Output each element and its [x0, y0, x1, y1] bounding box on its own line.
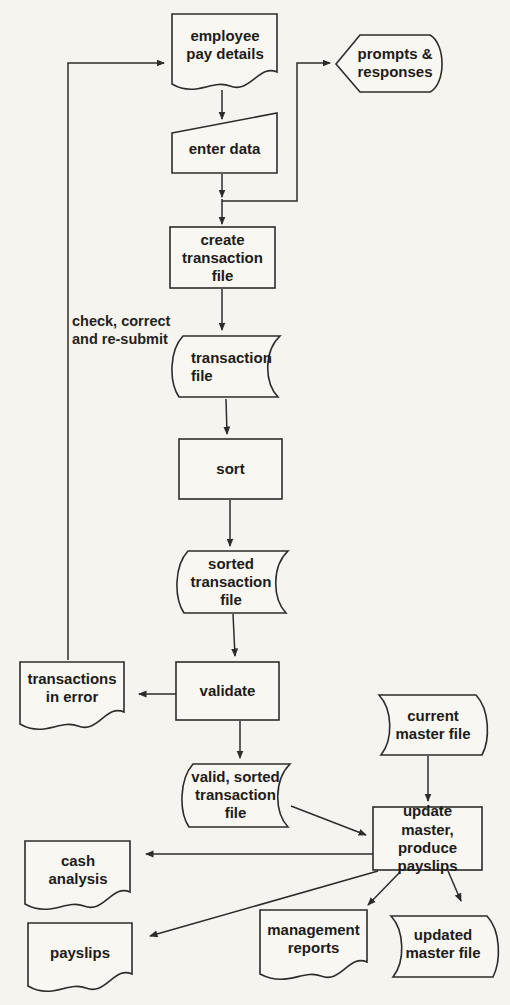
payslips-shape — [28, 923, 132, 991]
employee-pay-details-shape — [172, 14, 277, 89]
validate-shape — [176, 662, 279, 720]
update-master-produce-payslips-shape — [373, 807, 482, 870]
prompts-responses-shape — [336, 35, 442, 92]
edge-valid-sorted-file-to-update — [291, 806, 366, 835]
updated-master-file-shape — [391, 916, 498, 977]
enter-data-shape — [172, 113, 277, 173]
current-master-file-shape — [379, 695, 487, 755]
create-transaction-file-shape — [170, 227, 275, 288]
flowchart-drawing — [0, 0, 510, 1005]
cash-analysis-shape — [25, 841, 130, 909]
edge-sorted-transaction-file-to-validate — [233, 614, 235, 656]
valid-sorted-transaction-file-shape — [182, 764, 290, 827]
flowchart-page: employee pay details prompts & responses… — [0, 0, 510, 1005]
transactions-in-error-shape — [20, 662, 124, 729]
sort-shape — [179, 439, 282, 499]
edge-update-to-management-reports — [368, 872, 400, 905]
management-reports-shape — [260, 910, 367, 979]
sorted-transaction-file-shape — [177, 551, 288, 613]
edge-transaction-file-to-sort — [226, 399, 227, 434]
edge-error-feedback-to-employee-pay-details — [68, 63, 164, 660]
feedback-annotation: check, correct and re-submit — [72, 312, 180, 348]
edge-update-to-updated-master-file — [448, 871, 461, 901]
transaction-file-shape — [172, 336, 280, 397]
